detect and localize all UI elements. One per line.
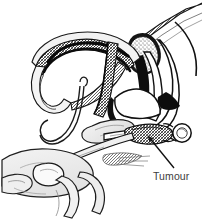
tumour-label: Tumour bbox=[153, 170, 190, 182]
illustration-canvas: Tumour bbox=[0, 0, 202, 223]
figure-container: Tumour bbox=[0, 0, 202, 223]
